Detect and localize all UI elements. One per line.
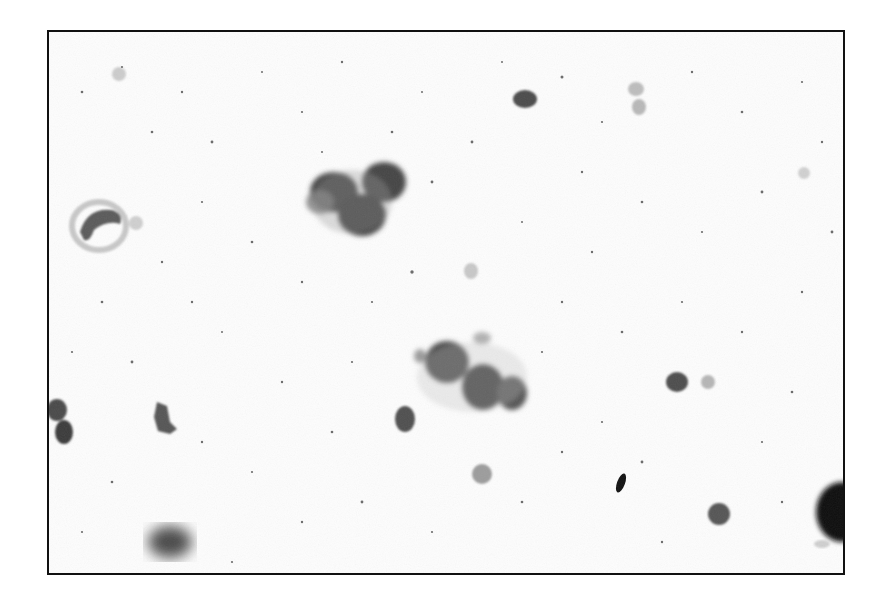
micrograph-frame: Grayscale micrograph of scattered cells … <box>47 30 845 575</box>
micrograph-image <box>49 32 843 573</box>
